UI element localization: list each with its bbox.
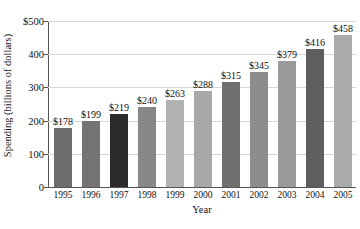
y-axis-tick-label: $500: [0, 16, 44, 27]
bar: $345: [250, 72, 267, 187]
bar: $199: [82, 121, 99, 187]
bar-value-label: $219: [109, 103, 129, 113]
y-axis-tick-label: 200: [0, 115, 44, 126]
plot-area: $178$199$219$240$263$288$315$345$379$416…: [48, 21, 356, 188]
bar: $178: [54, 128, 71, 187]
bar-value-label: $315: [221, 71, 241, 81]
x-axis-tick-label: 2002: [250, 190, 269, 200]
bar-rect: [278, 61, 295, 187]
x-axis-tick-label: 1995: [54, 190, 73, 200]
bar-rect: [82, 121, 99, 187]
bar: $458: [334, 35, 351, 187]
bars-container: $178$199$219$240$263$288$315$345$379$416…: [48, 21, 356, 188]
bar: $379: [278, 61, 295, 187]
bar: $240: [138, 107, 155, 187]
bar-rect: [194, 91, 211, 187]
y-axis-tick-label: 0: [0, 182, 44, 193]
bar-rect: [54, 128, 71, 187]
x-axis-tick-label: 2001: [222, 190, 241, 200]
bar-chart: Spending (billions of dollars) $178$199$…: [0, 0, 360, 229]
bar-value-label: $240: [137, 96, 157, 106]
bar-rect: [250, 72, 267, 187]
bar-rect: [138, 107, 155, 187]
bar: $288: [194, 91, 211, 187]
bar-value-label: $199: [81, 110, 101, 120]
bar: $219: [110, 114, 127, 187]
bar-rect: [110, 114, 127, 187]
bar-value-label: $458: [333, 24, 353, 34]
y-axis-tick-label: 100: [0, 148, 44, 159]
x-axis-tick-label: 2003: [278, 190, 297, 200]
x-axis-tick-label: 2005: [334, 190, 353, 200]
bar-value-label: $416: [305, 38, 325, 48]
x-axis-tick-label: 1997: [110, 190, 129, 200]
bar-value-label: $379: [277, 50, 297, 60]
x-axis-tick-label: 1998: [138, 190, 157, 200]
bar: $263: [166, 100, 183, 187]
bar-value-label: $263: [165, 89, 185, 99]
bar-value-label: $288: [193, 80, 213, 90]
x-axis-tick-label: 1996: [82, 190, 101, 200]
bar: $416: [306, 49, 323, 187]
bar-rect: [334, 35, 351, 187]
y-axis-title: Spending (billions of dollars): [0, 0, 16, 190]
x-axis-tick-label: 2004: [306, 190, 325, 200]
x-axis-tick-label: 1999: [166, 190, 185, 200]
bar-value-label: $345: [249, 61, 269, 71]
bar-rect: [222, 82, 239, 187]
y-axis-tick-label: 400: [0, 49, 44, 60]
bar-rect: [306, 49, 323, 187]
x-axis-title: Year: [48, 204, 356, 215]
y-axis-tick-label: 300: [0, 82, 44, 93]
bar-value-label: $178: [53, 117, 73, 127]
bar: $315: [222, 82, 239, 187]
x-axis-tick-label: 2000: [194, 190, 213, 200]
bar-rect: [166, 100, 183, 187]
